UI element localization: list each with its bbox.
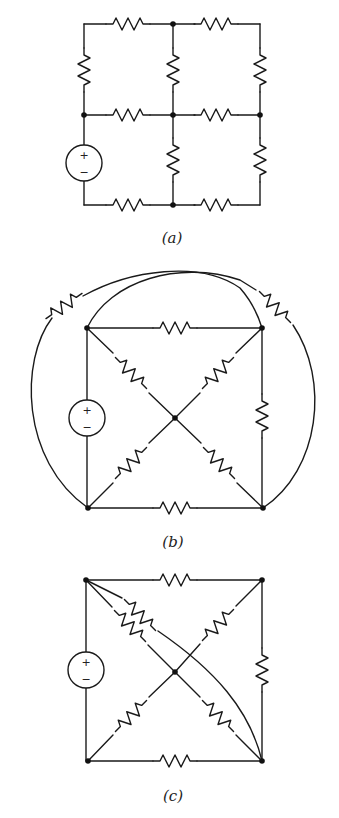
caption-b: (b) — [143, 533, 203, 551]
minus-sign: − — [79, 166, 88, 179]
circuit-figure: + − — [0, 0, 339, 818]
minus-sign: − — [82, 421, 91, 434]
voltage-source-icon: + − — [68, 652, 104, 688]
caption-a: (a) — [142, 229, 202, 247]
circuit-a: + − — [66, 18, 266, 211]
plus-sign: + — [81, 656, 90, 669]
plus-sign: + — [79, 149, 88, 162]
voltage-source-icon: + − — [69, 400, 105, 436]
circuit-b: + − — [31, 271, 315, 514]
caption-c: (c) — [143, 787, 203, 805]
minus-sign: − — [81, 673, 90, 686]
plus-sign: + — [82, 404, 91, 417]
circuit-c: + − — [68, 574, 268, 767]
voltage-source-icon: + − — [66, 145, 102, 181]
